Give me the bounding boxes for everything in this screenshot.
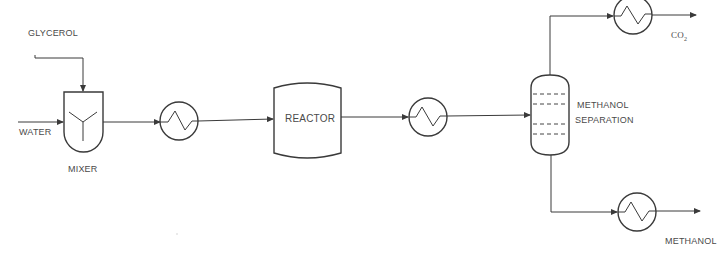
heat-exchanger-2-icon: [409, 98, 447, 136]
methanol-label: METHANOL: [665, 236, 717, 247]
column-bottoms-line: [551, 155, 617, 212]
water-label: WATER: [19, 127, 52, 138]
methanol-separation-column: [531, 75, 569, 155]
heat-exchanger-1-icon: [160, 102, 198, 140]
reactor-label: REACTOR: [285, 113, 335, 124]
co2-label-text: CO: [671, 30, 684, 40]
mixer-vessel: [64, 92, 103, 152]
heat-exchanger-4-icon: [618, 193, 656, 231]
glycerol-stream-line: [35, 55, 83, 91]
mixer-label: MIXER: [68, 164, 98, 175]
process-flow-diagram: GLYCEROL WATER MIXER REACTOR METHANOL SE…: [0, 0, 721, 257]
co2-label: CO2: [671, 30, 687, 45]
separation-label-line2: SEPARATION: [575, 115, 634, 126]
separation-label-line1: METHANOL: [577, 100, 629, 111]
co2-label-subscript: 2: [684, 36, 687, 42]
column-overhead-line: [550, 16, 613, 75]
heat-exchanger-3-icon: [614, 0, 652, 34]
diagram-graphics: [0, 0, 721, 257]
glycerol-label: GLYCEROL: [28, 28, 78, 39]
scan-noise-dot: [176, 233, 178, 235]
hx1-outlet-line: [198, 119, 273, 121]
hx2-outlet-line: [447, 115, 530, 116]
